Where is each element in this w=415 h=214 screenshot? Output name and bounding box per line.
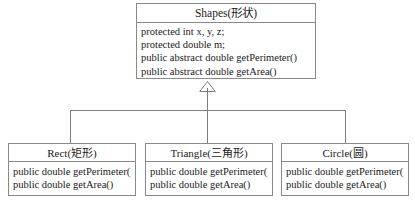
connector-stem bbox=[207, 88, 208, 110]
connector-drop-triangle bbox=[207, 110, 208, 143]
class-members-shapes: protected int x, y, z; protected double … bbox=[137, 23, 315, 78]
class-name-triangle: Triangle(三角形) bbox=[146, 144, 272, 162]
class-box-rect[interactable]: Rect(矩形) public double getPerimeter() pu… bbox=[8, 143, 136, 196]
member-line: public abstract double getArea() bbox=[141, 65, 311, 78]
member-line: public double getPerimeter() bbox=[286, 165, 404, 178]
class-members-rect: public double getPerimeter() public doub… bbox=[9, 162, 135, 191]
uml-class-diagram-canvas: Shapes(形状) protected int x, y, z; protec… bbox=[0, 0, 415, 214]
connector-drop-rect bbox=[70, 110, 71, 143]
class-members-triangle: public double getPerimeter() public doub… bbox=[146, 162, 272, 191]
member-line: protected double m; bbox=[141, 38, 311, 51]
member-line: public double getArea() bbox=[150, 178, 268, 191]
class-box-shapes[interactable]: Shapes(形状) protected int x, y, z; protec… bbox=[136, 3, 316, 79]
class-name-shapes: Shapes(形状) bbox=[137, 4, 315, 23]
member-line: public double getPerimeter() bbox=[13, 165, 131, 178]
class-members-circle: public double getPerimeter() public doub… bbox=[282, 162, 408, 191]
member-line: public double getPerimeter() bbox=[150, 165, 268, 178]
class-box-circle[interactable]: Circle(圆) public double getPerimeter() p… bbox=[281, 143, 409, 196]
member-line: protected int x, y, z; bbox=[141, 25, 311, 38]
connector-bus bbox=[70, 110, 346, 111]
member-line: public abstract double getPerimeter() bbox=[141, 51, 311, 64]
class-box-triangle[interactable]: Triangle(三角形) public double getPerimeter… bbox=[145, 143, 273, 196]
class-name-circle: Circle(圆) bbox=[282, 144, 408, 162]
member-line: public double getArea() bbox=[286, 178, 404, 191]
member-line: public double getArea() bbox=[13, 178, 131, 191]
class-name-rect: Rect(矩形) bbox=[9, 144, 135, 162]
connector-drop-circle bbox=[345, 110, 346, 143]
